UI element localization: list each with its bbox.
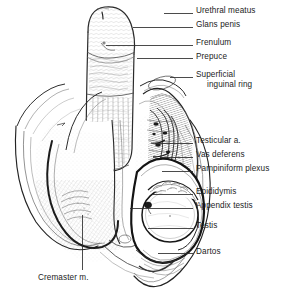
label-superficial-inguinal-ring: Superficialinguinal ring bbox=[196, 70, 287, 89]
label-pampiniform-plexus: Pampiniform plexus bbox=[196, 164, 269, 174]
label-cremaster-muscle: Cremaster m. bbox=[38, 273, 89, 283]
label-text: Vas deferens bbox=[196, 150, 245, 159]
label-vas-deferens: Vas deferens bbox=[196, 150, 245, 160]
anatomy-illustration bbox=[0, 0, 287, 292]
label-text: Cremaster m. bbox=[38, 273, 89, 282]
label-prepuce: Prepuce bbox=[196, 52, 227, 62]
label-text: Testis bbox=[196, 221, 217, 230]
label-text-line2: inguinal ring bbox=[196, 80, 287, 90]
label-appendix-testis: Appendix testis bbox=[196, 201, 253, 211]
label-text: Prepuce bbox=[196, 52, 227, 61]
label-text: Frenulum bbox=[196, 38, 231, 47]
label-urethral-meatus: Urethral meatus bbox=[196, 6, 255, 16]
label-testicular-artery: Testicular a. bbox=[196, 136, 241, 146]
label-epididymis: Epididymis bbox=[196, 187, 236, 197]
label-text: Urethral meatus bbox=[196, 6, 255, 15]
label-dartos: Dartos bbox=[196, 247, 221, 257]
label-frenulum: Frenulum bbox=[196, 38, 231, 48]
label-text: Appendix testis bbox=[196, 201, 253, 210]
label-glans-penis: Glans penis bbox=[196, 20, 240, 30]
anatomy-figure: Urethral meatusGlans penisFrenulumPrepuc… bbox=[0, 0, 287, 292]
label-text: Pampiniform plexus bbox=[196, 164, 269, 173]
label-text: Superficial bbox=[196, 70, 235, 79]
label-text: Glans penis bbox=[196, 20, 240, 29]
label-text: Dartos bbox=[196, 247, 221, 256]
label-text: Epididymis bbox=[196, 187, 236, 196]
label-text: Testicular a. bbox=[196, 136, 241, 145]
label-testis: Testis bbox=[196, 221, 217, 231]
